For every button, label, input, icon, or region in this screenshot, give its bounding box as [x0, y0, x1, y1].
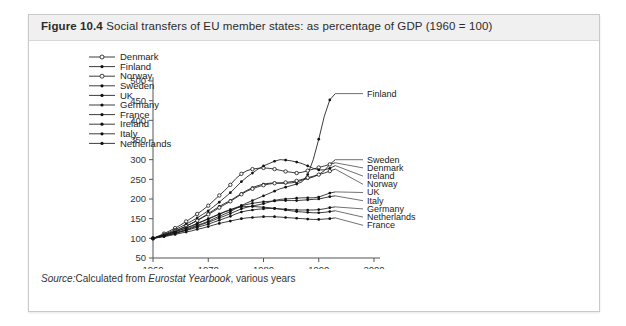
series-marker[interactable]	[273, 160, 276, 163]
series-marker[interactable]	[218, 213, 221, 216]
series-marker[interactable]	[306, 173, 309, 176]
series-marker[interactable]	[251, 205, 254, 208]
series-marker[interactable]	[317, 173, 320, 176]
series-marker[interactable]	[328, 163, 331, 166]
series-marker[interactable]	[207, 209, 210, 212]
series-marker[interactable]	[218, 194, 221, 197]
series-marker[interactable]	[273, 200, 276, 203]
series-marker[interactable]	[251, 202, 254, 205]
series-marker[interactable]	[229, 191, 232, 194]
series-marker[interactable]	[251, 216, 254, 219]
series-end-label[interactable]: France	[367, 220, 395, 230]
series-marker[interactable]	[229, 209, 232, 212]
series-marker[interactable]	[240, 193, 243, 196]
series-marker[interactable]	[284, 181, 287, 184]
series-marker[interactable]	[240, 217, 243, 220]
series-marker[interactable]	[240, 211, 243, 214]
series-marker[interactable]	[207, 218, 210, 221]
legend-swatch-marker[interactable]	[100, 103, 103, 106]
legend-swatch-marker[interactable]	[100, 132, 103, 135]
y-tick-label[interactable]: 250	[130, 174, 146, 185]
series-marker[interactable]	[174, 233, 177, 236]
series-marker[interactable]	[207, 204, 210, 207]
series-marker[interactable]	[273, 182, 276, 185]
series-marker[interactable]	[328, 99, 331, 102]
series-marker[interactable]	[229, 200, 232, 203]
series-marker[interactable]	[317, 211, 320, 214]
legend-item-netherlands[interactable]: Netherlands	[89, 138, 171, 149]
series-marker[interactable]	[229, 183, 232, 186]
y-tick-label[interactable]: 50	[135, 252, 146, 263]
series-end-label[interactable]: Finland	[367, 89, 397, 99]
end-label-leader[interactable]	[335, 192, 363, 193]
series-marker[interactable]	[284, 209, 287, 212]
series-marker[interactable]	[306, 218, 309, 221]
series-marker[interactable]	[284, 186, 287, 189]
series-marker[interactable]	[240, 206, 243, 209]
legend-label[interactable]: Netherlands	[120, 138, 171, 149]
series-marker[interactable]	[185, 227, 188, 230]
series-marker[interactable]	[328, 195, 331, 198]
series-marker[interactable]	[317, 208, 320, 211]
series-marker[interactable]	[251, 167, 254, 170]
series-marker[interactable]	[273, 207, 276, 210]
series-marker[interactable]	[196, 228, 199, 231]
series-marker[interactable]	[229, 212, 232, 215]
series-marker[interactable]	[306, 165, 309, 168]
legend-swatch-marker[interactable]	[100, 142, 103, 145]
y-tick-label[interactable]: 300	[130, 154, 146, 165]
series-marker[interactable]	[229, 215, 232, 218]
series-marker[interactable]	[218, 222, 221, 225]
series-marker[interactable]	[184, 220, 187, 223]
y-tick-label[interactable]: 100	[130, 233, 146, 244]
series-marker[interactable]	[295, 161, 298, 164]
series-marker[interactable]	[306, 198, 309, 201]
series-marker[interactable]	[251, 209, 254, 212]
x-tick-label[interactable]: 1970	[198, 264, 219, 269]
series-marker[interactable]	[284, 199, 287, 202]
series-marker[interactable]	[306, 209, 309, 212]
x-tick-label[interactable]: 1960	[142, 264, 163, 269]
series-marker[interactable]	[207, 225, 210, 228]
end-label-leader[interactable]	[335, 169, 363, 184]
series-marker[interactable]	[251, 187, 254, 190]
series-marker[interactable]	[196, 222, 199, 225]
series-marker[interactable]	[273, 190, 276, 193]
series-marker[interactable]	[273, 215, 276, 218]
series-marker[interactable]	[262, 195, 265, 198]
end-label-leader[interactable]	[335, 218, 363, 225]
x-tick-label[interactable]: 1990	[308, 264, 329, 269]
series-marker[interactable]	[317, 198, 320, 201]
series-marker[interactable]	[328, 192, 331, 195]
series-marker[interactable]	[306, 176, 309, 179]
series-marker[interactable]	[295, 179, 298, 182]
series-marker[interactable]	[185, 231, 188, 234]
series-marker[interactable]	[306, 211, 309, 214]
series-marker[interactable]	[218, 201, 221, 204]
series-marker[interactable]	[262, 184, 265, 187]
end-label-leader[interactable]	[335, 196, 363, 201]
x-tick-label[interactable]: 1980	[253, 264, 274, 269]
series-marker[interactable]	[328, 169, 331, 172]
series-marker[interactable]	[284, 170, 287, 173]
series-marker[interactable]	[218, 217, 221, 220]
x-tick-label[interactable]: 2000	[363, 264, 384, 269]
series-marker[interactable]	[295, 199, 298, 202]
series-marker[interactable]	[207, 213, 210, 216]
legend-swatch-marker[interactable]	[100, 55, 104, 59]
series-marker[interactable]	[295, 171, 298, 174]
end-label-leader[interactable]	[335, 207, 363, 209]
legend-swatch-marker[interactable]	[100, 65, 103, 68]
series-marker[interactable]	[163, 235, 166, 238]
series-marker[interactable]	[152, 237, 155, 240]
series-marker[interactable]	[317, 138, 320, 141]
legend-swatch-marker[interactable]	[100, 123, 103, 126]
series-marker[interactable]	[207, 223, 210, 226]
series-marker[interactable]	[262, 200, 265, 203]
series-marker[interactable]	[262, 215, 265, 218]
series-marker[interactable]	[295, 210, 298, 213]
series-marker[interactable]	[240, 180, 243, 183]
legend-swatch-marker[interactable]	[100, 84, 103, 87]
series-italy[interactable]	[152, 195, 336, 239]
series-marker[interactable]	[317, 218, 320, 221]
